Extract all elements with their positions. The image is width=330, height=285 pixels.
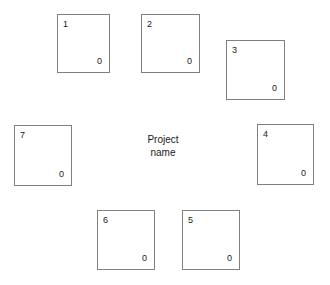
node-value-label: 0 xyxy=(301,168,306,179)
node-index-label: 6 xyxy=(103,215,108,226)
diagram-canvas: 10203040506070 Project name xyxy=(0,0,330,285)
node-value-label: 0 xyxy=(227,253,232,264)
center-label: Project name xyxy=(118,133,208,159)
center-label-line-1: Project xyxy=(118,133,208,146)
node-value-label: 0 xyxy=(187,56,192,67)
node-value-label: 0 xyxy=(97,56,102,67)
node-index-label: 5 xyxy=(188,215,193,226)
node-box[interactable]: 50 xyxy=(182,210,240,270)
node-box[interactable]: 60 xyxy=(97,210,155,270)
node-index-label: 1 xyxy=(63,19,68,30)
node-box[interactable]: 70 xyxy=(14,125,72,186)
node-box[interactable]: 10 xyxy=(57,14,110,73)
node-value-label: 0 xyxy=(59,169,64,180)
node-value-label: 0 xyxy=(272,83,277,94)
node-index-label: 4 xyxy=(263,129,268,140)
node-box[interactable]: 20 xyxy=(141,14,200,73)
node-index-label: 2 xyxy=(147,19,152,30)
node-value-label: 0 xyxy=(142,253,147,264)
node-index-label: 7 xyxy=(20,130,25,141)
node-box[interactable]: 30 xyxy=(226,40,285,100)
center-label-line-2: name xyxy=(118,146,208,159)
node-index-label: 3 xyxy=(232,45,237,56)
node-box[interactable]: 40 xyxy=(257,124,314,185)
